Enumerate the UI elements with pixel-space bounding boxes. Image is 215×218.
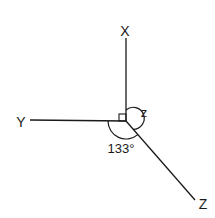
y-axis-line — [30, 120, 126, 121]
angle-z-label: z — [141, 105, 148, 120]
x-axis-label: X — [120, 23, 130, 39]
z-axis-line — [126, 121, 195, 200]
angle-diagram: X Y Z z 133° — [0, 0, 215, 218]
right-angle-marker — [119, 114, 126, 121]
angle-133-label: 133° — [108, 141, 135, 156]
z-axis-label: Z — [199, 196, 208, 212]
y-axis-label: Y — [16, 114, 26, 130]
